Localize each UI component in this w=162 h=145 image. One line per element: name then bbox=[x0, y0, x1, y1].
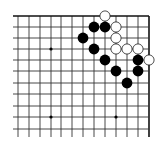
black-stone bbox=[100, 22, 111, 33]
white-stone bbox=[144, 55, 154, 65]
white-stone bbox=[111, 22, 121, 32]
star-point bbox=[114, 115, 117, 118]
star-point bbox=[49, 47, 52, 50]
white-stone bbox=[122, 44, 132, 54]
white-stone bbox=[111, 33, 121, 43]
black-stone bbox=[78, 33, 89, 44]
black-stone bbox=[133, 55, 144, 66]
black-stone bbox=[133, 66, 144, 77]
black-stone bbox=[89, 22, 100, 33]
white-stone bbox=[100, 11, 110, 21]
go-board bbox=[0, 0, 162, 145]
star-point bbox=[49, 115, 52, 118]
white-stone bbox=[133, 44, 143, 54]
black-stone bbox=[122, 78, 133, 89]
white-stone bbox=[111, 44, 121, 54]
black-stone bbox=[100, 55, 111, 66]
black-stone bbox=[111, 66, 122, 77]
black-stone bbox=[89, 44, 100, 55]
